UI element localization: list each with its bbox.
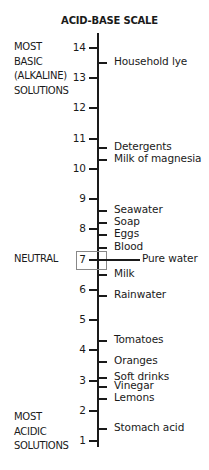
item-tick: [98, 210, 107, 212]
most-acidic-label: MOST ACIDIC SOLUTIONS: [14, 410, 69, 454]
item-tick: [98, 247, 107, 249]
most-basic-label: MOST BASIC (ALKALINE) SOLUTIONS: [14, 40, 69, 98]
tick-label: 11: [66, 132, 86, 144]
tick-mark: [89, 289, 98, 291]
tick-mark: [89, 77, 98, 79]
neutral-label: NEUTRAL: [14, 252, 58, 267]
tick-label: 13: [66, 71, 86, 83]
tick-mark: [89, 319, 98, 321]
item-tick: [98, 259, 140, 261]
substance-label: Blood: [114, 240, 143, 252]
diagram-title: ACID-BASE SCALE: [0, 15, 209, 26]
substance-label: Tomatoes: [114, 333, 163, 345]
tick-label: 10: [66, 162, 86, 174]
tick-label: 14: [66, 41, 86, 53]
substance-label: Stomach acid: [114, 421, 184, 433]
item-tick: [98, 222, 107, 224]
basic-line-4: SOLUTIONS: [14, 84, 69, 99]
substance-label: Lemons: [114, 391, 154, 403]
substance-label: Milk of magnesia: [114, 152, 201, 164]
item-tick: [98, 386, 107, 388]
substance-label: Soap: [114, 215, 140, 227]
tick-label: 1: [66, 434, 86, 446]
tick-mark: [89, 107, 98, 109]
tick-mark: [89, 380, 98, 382]
item-tick: [98, 274, 107, 276]
acidic-line-2: ACIDIC: [14, 425, 69, 440]
tick-label: 4: [66, 343, 86, 355]
acidic-line-3: SOLUTIONS: [14, 439, 69, 454]
substance-label: Vinegar: [114, 379, 154, 391]
basic-line-2: BASIC: [14, 55, 69, 70]
tick-mark: [89, 168, 98, 170]
tick-mark: [89, 138, 98, 140]
tick-mark: [89, 440, 98, 442]
substance-label: Oranges: [114, 354, 158, 366]
substance-label: Pure water: [142, 252, 198, 264]
item-tick: [98, 147, 107, 149]
item-tick: [98, 428, 107, 430]
substance-label: Rainwater: [114, 288, 166, 300]
tick-label: 3: [66, 374, 86, 386]
tick-mark: [89, 259, 98, 261]
acidic-line-1: MOST: [14, 410, 69, 425]
basic-line-1: MOST: [14, 40, 69, 55]
tick-mark: [89, 349, 98, 351]
item-tick: [98, 295, 107, 297]
tick-label: 7: [66, 253, 86, 265]
tick-label: 6: [66, 283, 86, 295]
tick-label: 5: [66, 313, 86, 325]
item-tick: [98, 398, 107, 400]
tick-mark: [89, 228, 98, 230]
tick-mark: [89, 198, 98, 200]
substance-label: Seawater: [114, 203, 163, 215]
item-tick: [98, 340, 107, 342]
item-tick: [98, 159, 107, 161]
substance-label: Eggs: [114, 227, 139, 239]
item-tick: [98, 361, 107, 363]
tick-mark: [89, 410, 98, 412]
substance-label: Milk: [114, 267, 135, 279]
substance-label: Detergents: [114, 140, 172, 152]
tick-label: 2: [66, 404, 86, 416]
tick-label: 9: [66, 192, 86, 204]
basic-line-3: (ALKALINE): [14, 69, 69, 84]
item-tick: [98, 62, 107, 64]
tick-label: 12: [66, 101, 86, 113]
substance-label: Household lye: [114, 55, 187, 67]
item-tick: [98, 377, 107, 379]
tick-mark: [89, 47, 98, 49]
item-tick: [98, 234, 107, 236]
tick-label: 8: [66, 222, 86, 234]
